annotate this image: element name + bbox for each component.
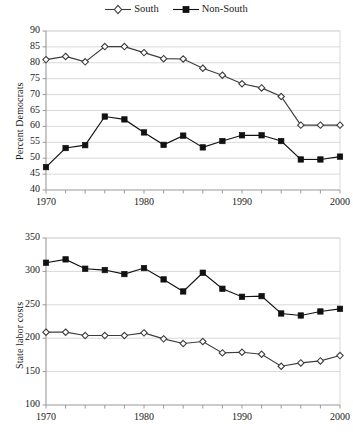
data-point-marker-diamond bbox=[200, 338, 206, 344]
data-point-marker-square bbox=[43, 260, 48, 265]
data-point-marker-diamond bbox=[258, 351, 264, 357]
data-point-marker-diamond bbox=[180, 340, 186, 346]
data-point-marker-diamond bbox=[43, 329, 49, 335]
data-point-marker-square bbox=[161, 142, 166, 147]
data-point-marker-square bbox=[318, 309, 323, 314]
data-point-marker-square bbox=[200, 145, 205, 150]
y-axis-tick-label: 60 bbox=[10, 119, 40, 130]
data-point-marker-square bbox=[279, 311, 284, 316]
data-point-marker-square bbox=[337, 306, 342, 311]
data-point-marker-square bbox=[122, 271, 127, 276]
y-axis-tick-label: 55 bbox=[10, 135, 40, 146]
data-point-marker-square bbox=[220, 286, 225, 291]
data-point-marker-diamond bbox=[317, 358, 323, 364]
chart-panel-percent-democrats: South Non-South Percent Democrats 404550… bbox=[0, 0, 353, 224]
data-point-marker-square bbox=[141, 130, 146, 135]
data-point-marker-square bbox=[181, 289, 186, 294]
data-line-south bbox=[46, 332, 340, 366]
data-point-marker-square bbox=[181, 133, 186, 138]
x-axis-tick-label: 1980 bbox=[119, 411, 169, 422]
data-point-marker-diamond bbox=[141, 49, 147, 55]
x-axis-tick-label: 1980 bbox=[119, 196, 169, 207]
data-point-marker-diamond bbox=[298, 360, 304, 366]
y-axis-tick-label: 75 bbox=[10, 72, 40, 83]
data-point-marker-square bbox=[259, 133, 264, 138]
y-axis-tick-label: 200 bbox=[10, 331, 40, 342]
data-point-marker-diamond bbox=[337, 122, 343, 128]
data-point-marker-square bbox=[83, 142, 88, 147]
y-axis-tick-label: 70 bbox=[10, 88, 40, 99]
y-axis-tick-label: 100 bbox=[10, 398, 40, 409]
x-axis-tick-label: 1990 bbox=[217, 196, 267, 207]
data-point-marker-diamond bbox=[141, 330, 147, 336]
y-axis-tick-label: 65 bbox=[10, 104, 40, 115]
y-axis-tick-label: 40 bbox=[10, 183, 40, 194]
data-line-south bbox=[46, 47, 340, 126]
data-point-marker-square bbox=[298, 313, 303, 318]
data-point-marker-diamond bbox=[337, 352, 343, 358]
data-point-marker-diamond bbox=[219, 72, 225, 78]
y-axis-tick-label: 50 bbox=[10, 151, 40, 162]
data-point-marker-diamond bbox=[121, 43, 127, 49]
data-point-marker-square bbox=[239, 294, 244, 299]
data-point-marker-diamond bbox=[239, 349, 245, 355]
data-point-marker-diamond bbox=[258, 85, 264, 91]
y-axis-tick-label: 85 bbox=[10, 40, 40, 51]
data-point-marker-diamond bbox=[278, 363, 284, 369]
data-point-marker-diamond bbox=[219, 350, 225, 356]
data-point-marker-diamond bbox=[62, 329, 68, 335]
data-point-marker-square bbox=[318, 157, 323, 162]
x-axis-tick-label: 1970 bbox=[21, 411, 71, 422]
plot-area-percent-democrats bbox=[0, 0, 353, 224]
data-point-marker-diamond bbox=[160, 336, 166, 342]
data-point-marker-diamond bbox=[239, 81, 245, 87]
data-point-marker-square bbox=[337, 154, 342, 159]
data-point-marker-square bbox=[239, 133, 244, 138]
data-point-marker-diamond bbox=[180, 56, 186, 62]
y-axis-tick-label: 45 bbox=[10, 167, 40, 178]
data-point-marker-diamond bbox=[62, 53, 68, 59]
data-point-marker-square bbox=[102, 267, 107, 272]
data-point-marker-square bbox=[43, 164, 48, 169]
x-axis-tick-label: 1990 bbox=[217, 411, 267, 422]
data-point-marker-square bbox=[102, 114, 107, 119]
y-axis-tick-label: 250 bbox=[10, 298, 40, 309]
data-point-marker-diamond bbox=[298, 122, 304, 128]
x-axis-tick-label: 2000 bbox=[315, 411, 353, 422]
y-axis-tick-label: 150 bbox=[10, 365, 40, 376]
data-point-marker-diamond bbox=[160, 55, 166, 61]
data-line-non-south bbox=[46, 259, 340, 315]
data-point-marker-square bbox=[83, 266, 88, 271]
data-point-marker-square bbox=[220, 138, 225, 143]
y-axis-tick-label: 90 bbox=[10, 24, 40, 35]
x-axis-tick-label: 2000 bbox=[315, 196, 353, 207]
data-point-marker-square bbox=[298, 157, 303, 162]
data-point-marker-square bbox=[279, 138, 284, 143]
data-point-marker-square bbox=[122, 117, 127, 122]
y-axis-tick-label: 300 bbox=[10, 264, 40, 275]
data-point-marker-square bbox=[63, 145, 68, 150]
data-point-marker-square bbox=[200, 270, 205, 275]
data-point-marker-square bbox=[259, 293, 264, 298]
chart-panel-state-labor-costs: State labor costs 1001502002503003501970… bbox=[0, 224, 353, 448]
y-axis-tick-label: 350 bbox=[10, 231, 40, 242]
y-axis-tick-label: 80 bbox=[10, 56, 40, 67]
data-point-marker-square bbox=[63, 257, 68, 262]
data-point-marker-square bbox=[141, 265, 146, 270]
data-point-marker-square bbox=[161, 277, 166, 282]
data-point-marker-diamond bbox=[200, 65, 206, 71]
data-point-marker-diamond bbox=[317, 122, 323, 128]
two-panel-line-chart-figure: South Non-South Percent Democrats 404550… bbox=[0, 0, 353, 448]
x-axis-tick-label: 1970 bbox=[21, 196, 71, 207]
data-point-marker-diamond bbox=[43, 56, 49, 62]
